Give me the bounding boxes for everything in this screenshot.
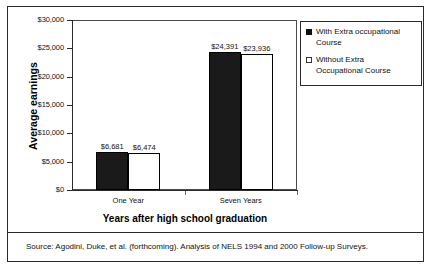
legend-item-label: Without ExtraOccupational Course (316, 55, 391, 76)
x-axis-title: Years after high school graduation (72, 213, 298, 224)
x-axis-tick (185, 191, 186, 195)
y-axis-tick (67, 133, 72, 134)
x-category-label: One Year (78, 196, 178, 205)
legend-label-line1: Without Extra (316, 55, 364, 64)
y-axis-title-wrap: Average earnings (14, 20, 32, 190)
legend-item: Without ExtraOccupational Course (306, 55, 417, 76)
y-axis-tick (67, 77, 72, 78)
legend-item: With Extra occupationalCourse (306, 27, 417, 48)
bar (209, 52, 241, 190)
bar (96, 152, 128, 190)
y-axis-tick (67, 162, 72, 163)
source-note: Source: Agodini, Duke, et al. (forthcomi… (26, 241, 368, 252)
hollow-square-icon (306, 57, 312, 63)
y-axis-tick (67, 105, 72, 106)
x-axis-tick (297, 191, 298, 195)
filled-square-icon (306, 29, 312, 35)
y-axis-title: Average earnings (27, 41, 39, 171)
chart-region: $0$5,000$10,000$15,000$20,000$25,000$30,… (0, 0, 432, 232)
bar (128, 153, 160, 190)
legend: With Extra occupationalCourse Without Ex… (300, 21, 422, 86)
y-axis-tick (67, 20, 72, 21)
legend-label-line1: With Extra occupational (316, 27, 400, 36)
y-axis-tick (67, 190, 72, 191)
source-divider (8, 232, 423, 233)
bar-value-label: $6,474 (124, 143, 164, 152)
bar-value-label: $23,936 (237, 44, 277, 53)
bar (241, 54, 273, 190)
x-category-label: Seven Years (191, 196, 291, 205)
legend-label-line2: Course (316, 38, 342, 47)
legend-label-line2: Occupational Course (316, 66, 391, 75)
figure: $0$5,000$10,000$15,000$20,000$25,000$30,… (0, 0, 432, 270)
y-axis-tick (67, 48, 72, 49)
legend-item-label: With Extra occupationalCourse (316, 27, 400, 48)
